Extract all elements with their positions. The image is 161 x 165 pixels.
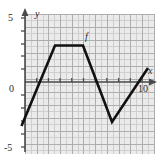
x-axis-label-10: 10	[138, 84, 148, 94]
x-axis-name-label: x	[148, 66, 152, 76]
y-axis-arrow-icon	[22, 8, 29, 16]
y-axis-label-5: 5	[8, 13, 13, 23]
y-axis-name-label: y	[35, 9, 39, 19]
function-curve-f	[22, 46, 149, 127]
graph-figure: 5 0 -5 y x 10 f	[0, 0, 161, 165]
axes-and-curve-layer	[0, 0, 161, 165]
curve-name-label-f: f	[85, 32, 88, 42]
y-axis-label-0: 0	[9, 84, 14, 94]
x-axis-arrow-icon	[149, 79, 157, 86]
y-axis-label-minus5: -5	[4, 143, 12, 153]
